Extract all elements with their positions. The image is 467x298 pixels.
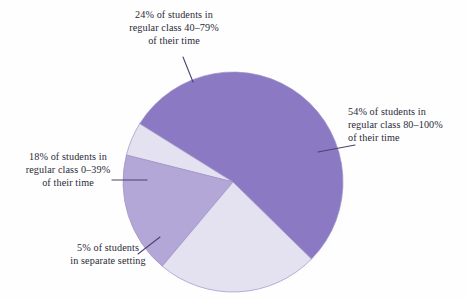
leader-line-top	[183, 57, 193, 82]
label-regular-0-39-line3: of their time	[6, 176, 130, 189]
label-regular-40-79-line2: regular class 40–79%	[104, 21, 244, 34]
label-regular-40-79: 24% of students in regular class 40–79% …	[104, 8, 244, 48]
label-regular-80-100-line3: of their time	[348, 131, 467, 144]
label-regular-40-79-line1: 24% of students in	[104, 8, 244, 21]
label-separate-setting-line2: in separate setting	[48, 254, 168, 267]
label-regular-0-39-line1: 18% of students in	[6, 150, 130, 163]
label-regular-40-79-line3: of their time	[104, 34, 244, 47]
label-regular-0-39: 18% of students in regular class 0–39% o…	[6, 150, 130, 190]
label-regular-80-100-line1: 54% of students in	[348, 105, 467, 118]
label-regular-80-100: 54% of students in regular class 80–100%…	[348, 105, 467, 145]
label-separate-setting-line1: 5% of students	[48, 241, 168, 254]
label-regular-80-100-line2: regular class 80–100%	[348, 118, 467, 131]
label-separate-setting: 5% of students in separate setting	[48, 241, 168, 267]
label-regular-0-39-line2: regular class 0–39%	[6, 163, 130, 176]
pie-chart-figure: 24% of students in regular class 40–79% …	[0, 0, 467, 298]
